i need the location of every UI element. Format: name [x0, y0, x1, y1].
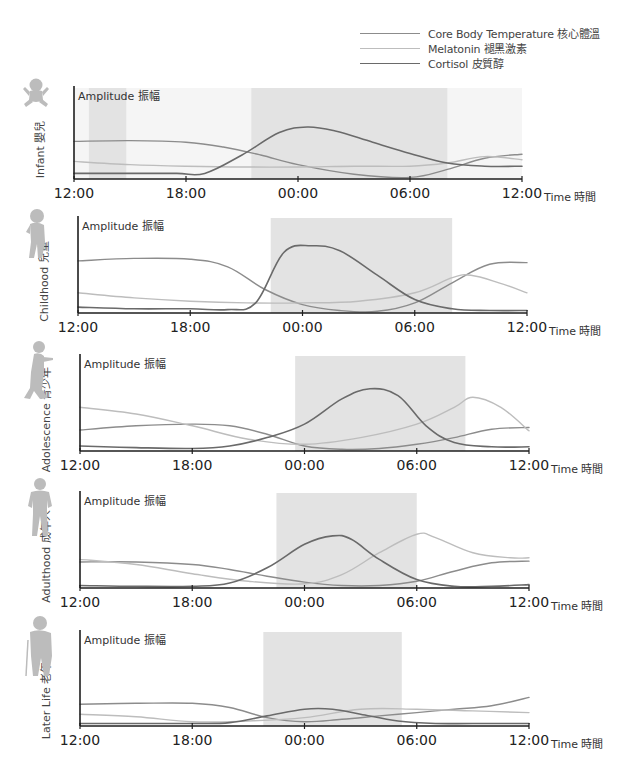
child-figure-icon	[26, 209, 45, 258]
y-axis-title: Amplitude 振幅	[84, 494, 166, 508]
panel-1: 12:0018:0000:0006:0012:00Time 時間Amplitud…	[26, 209, 601, 338]
x-tick-label: 00:00	[284, 732, 324, 748]
panel-2: 12:0018:0000:0006:0012:00Time 時間Amplitud…	[24, 341, 603, 476]
y-axis-title: Amplitude 振幅	[82, 219, 164, 233]
x-tick-label: 18:00	[166, 185, 206, 201]
x-axis-title: Time 時間	[543, 191, 596, 204]
x-tick-label: 12:00	[60, 457, 100, 473]
x-tick-label: 12:00	[502, 185, 542, 201]
x-axis-title: Time 時間	[550, 600, 603, 613]
x-tick-label: 06:00	[397, 732, 437, 748]
x-tick-label: 06:00	[397, 594, 437, 610]
x-tick-label: 18:00	[170, 319, 210, 335]
x-tick-label: 12:00	[60, 732, 100, 748]
panel-3: 12:0018:0000:0006:0012:00Time 時間Amplitud…	[28, 478, 603, 613]
y-axis-title: Amplitude 振幅	[78, 89, 160, 103]
x-tick-label: 12:00	[509, 594, 549, 610]
x-tick-label: 00:00	[284, 457, 324, 473]
x-axis-title: Time 時間	[550, 463, 603, 476]
x-tick-label: 18:00	[172, 732, 212, 748]
x-tick-label: 06:00	[395, 319, 435, 335]
x-tick-label: 12:00	[509, 457, 549, 473]
x-tick-label: 12:00	[58, 319, 98, 335]
y-axis-title: Amplitude 振幅	[84, 633, 166, 647]
y-axis-title: Amplitude 振幅	[84, 357, 166, 371]
panel-4: 12:0018:0000:0006:0012:00Time 時間Amplitud…	[26, 616, 603, 751]
x-tick-label: 12:00	[54, 185, 94, 201]
x-tick-label: 06:00	[390, 185, 430, 201]
infant-figure-icon	[23, 79, 49, 108]
x-tick-label: 18:00	[172, 457, 212, 473]
x-tick-label: 12:00	[60, 594, 100, 610]
sleep-shade	[276, 493, 416, 588]
x-tick-label: 12:00	[507, 319, 547, 335]
x-tick-label: 00:00	[282, 319, 322, 335]
panel-0: 12:0018:0000:0006:0012:00Time 時間Amplitud…	[23, 79, 596, 205]
x-tick-label: 18:00	[172, 594, 212, 610]
x-tick-label: 06:00	[397, 457, 437, 473]
elderly-figure-icon	[26, 616, 52, 676]
x-tick-label: 12:00	[509, 732, 549, 748]
x-axis-title: Time 時間	[550, 738, 603, 751]
x-tick-label: 00:00	[278, 185, 318, 201]
panel-label: Infant 嬰兒	[34, 121, 47, 179]
x-axis-title: Time 時間	[548, 325, 601, 338]
x-tick-label: 00:00	[284, 594, 324, 610]
chart-area: 12:0018:0000:0006:0012:00Time 時間Amplitud…	[0, 0, 635, 784]
